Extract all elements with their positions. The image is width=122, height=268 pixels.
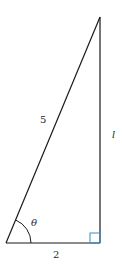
opposite-side-label: l <box>112 130 115 140</box>
angle-theta-label: θ <box>31 218 37 228</box>
hypotenuse-label: 5 <box>40 115 46 125</box>
hypotenuse-side <box>6 17 100 243</box>
adjacent-side-label: 2 <box>53 250 59 260</box>
right-triangle-diagram <box>0 0 122 268</box>
angle-arc-icon <box>16 220 31 243</box>
right-angle-marker-icon <box>90 233 100 243</box>
